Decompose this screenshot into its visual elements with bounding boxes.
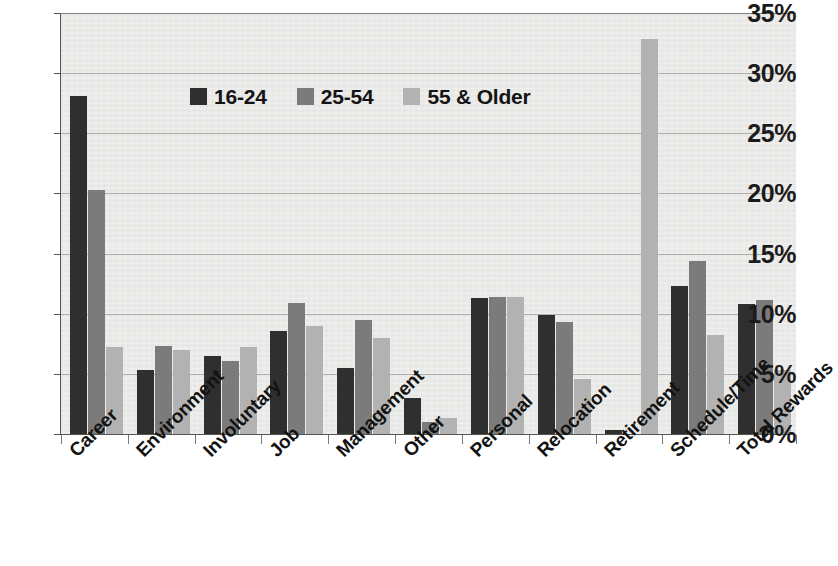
bar-group-job xyxy=(270,13,323,434)
bar[interactable] xyxy=(88,190,105,434)
x-axis-tick-7 xyxy=(596,435,597,444)
bar[interactable] xyxy=(337,368,354,434)
legend-item-2[interactable]: 55 & Older xyxy=(403,86,530,107)
y-axis-tick-label-10: 10% xyxy=(744,302,796,327)
bar[interactable] xyxy=(288,303,305,434)
y-axis-tick-label-25: 25% xyxy=(744,121,796,146)
bar[interactable] xyxy=(641,39,658,434)
legend-swatch-icon-1 xyxy=(297,88,314,105)
legend-label-2: 55 & Older xyxy=(427,86,530,107)
y-axis-tick-10 xyxy=(54,314,61,315)
legend-item-0[interactable]: 16-24 xyxy=(190,86,267,107)
plot-area xyxy=(61,13,796,434)
x-axis-tick-2 xyxy=(261,435,262,444)
y-axis-tick-35 xyxy=(54,13,61,14)
bar-group-schedule-time xyxy=(671,13,724,434)
y-axis-tick-30 xyxy=(54,73,61,74)
y-axis xyxy=(60,13,61,435)
x-axis-tick-10 xyxy=(796,435,797,444)
legend-swatch-icon-0 xyxy=(190,88,207,105)
bar-group-management xyxy=(337,13,390,434)
y-axis-tick-label-20: 20% xyxy=(744,181,796,206)
y-axis-tick-label-30: 30% xyxy=(744,61,796,86)
x-axis-tick-3 xyxy=(328,435,329,444)
y-axis-tick-0 xyxy=(54,434,61,435)
legend-label-1: 25-54 xyxy=(321,86,374,107)
bar-group-personal xyxy=(471,13,524,434)
bar[interactable] xyxy=(671,286,688,434)
bar-group-retirement xyxy=(605,13,658,434)
y-axis-tick-25 xyxy=(54,133,61,134)
bar[interactable] xyxy=(471,298,488,434)
legend-item-1[interactable]: 25-54 xyxy=(297,86,374,107)
x-axis-tick-0 xyxy=(128,435,129,444)
x-axis-tick-5 xyxy=(462,435,463,444)
legend: 16-24 25-54 55 & Older xyxy=(190,86,530,107)
y-axis-tick-15 xyxy=(54,254,61,255)
x-axis-tick-4 xyxy=(395,435,396,444)
x-axis-tick-9 xyxy=(729,435,730,444)
bar[interactable] xyxy=(306,326,323,434)
bar-group-environment xyxy=(137,13,190,434)
x-axis-tick-8 xyxy=(662,435,663,444)
bar-group-relocation xyxy=(538,13,591,434)
y-axis-tick-5 xyxy=(54,374,61,375)
x-axis-tick-6 xyxy=(529,435,530,444)
bar-group-career xyxy=(70,13,123,434)
y-axis-tick-label-35: 35% xyxy=(744,1,796,26)
x-axis-tick-origin xyxy=(61,435,62,444)
bar[interactable] xyxy=(538,315,555,434)
legend-label-0: 16-24 xyxy=(214,86,267,107)
legend-swatch-icon-2 xyxy=(403,88,420,105)
x-axis-tick-1 xyxy=(195,435,196,444)
y-axis-tick-label-15: 15% xyxy=(744,242,796,267)
bar[interactable] xyxy=(70,96,87,434)
y-axis-tick-20 xyxy=(54,193,61,194)
bar[interactable] xyxy=(137,370,154,434)
